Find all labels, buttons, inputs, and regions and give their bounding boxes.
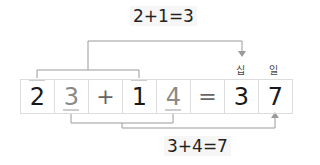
top-equation: 2+1=3 [130, 6, 197, 26]
plus-cell: + [89, 80, 123, 113]
equals-cell: = [191, 80, 225, 113]
arrow-down-icon [238, 51, 246, 57]
result-ones-cell: 7 [259, 80, 293, 113]
tens-place-label: 십 [236, 62, 245, 77]
digit-cell-ones-3: 3 [55, 80, 89, 113]
bottom-equation: 3+4=7 [164, 136, 231, 156]
ones-place-label: 일 [269, 62, 278, 77]
digit-cell-tens-1: 1 [123, 80, 157, 113]
digit-cell-tens-2: 2 [21, 80, 55, 113]
digit-cell-ones-4: 4 [157, 80, 191, 113]
equation-row: 2 3 + 1 4 = 3 7 [20, 79, 293, 114]
result-tens-cell: 3 [225, 80, 259, 113]
